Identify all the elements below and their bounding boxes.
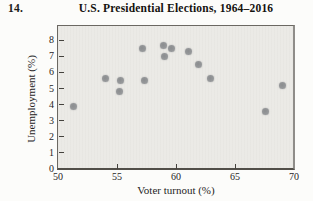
y-tick-mark bbox=[59, 120, 64, 121]
y-tick-label: 4 bbox=[36, 99, 54, 111]
y-tick-mark bbox=[59, 88, 64, 89]
data-point bbox=[195, 61, 202, 68]
data-point bbox=[141, 77, 148, 84]
plot-area bbox=[57, 25, 295, 170]
x-tick-label: 70 bbox=[284, 171, 304, 183]
data-point bbox=[102, 75, 109, 82]
y-tick-label: 5 bbox=[36, 83, 54, 95]
y-tick-label: 1 bbox=[36, 147, 54, 159]
y-tick-label: 2 bbox=[36, 131, 54, 143]
x-axis-label: Voter turnout (%) bbox=[57, 184, 295, 196]
y-tick-mark bbox=[59, 56, 64, 57]
data-point bbox=[168, 45, 175, 52]
data-point bbox=[70, 103, 77, 110]
x-tick-mark bbox=[235, 164, 236, 169]
data-point bbox=[262, 108, 269, 115]
y-tick-label: 6 bbox=[36, 66, 54, 78]
data-point bbox=[117, 77, 124, 84]
y-tick-label: 7 bbox=[36, 50, 54, 62]
y-tick-mark bbox=[59, 72, 64, 73]
data-point bbox=[160, 42, 167, 49]
data-point bbox=[279, 82, 286, 89]
y-axis-label: Unemployment (%) bbox=[25, 55, 37, 143]
chart-title: U.S. Presidential Elections, 1964–2016 bbox=[50, 2, 302, 14]
y-tick-mark bbox=[59, 40, 64, 41]
exercise-number: 14. bbox=[8, 2, 23, 14]
scatterplot-figure: 14. U.S. Presidential Elections, 1964–20… bbox=[0, 0, 313, 201]
y-tick-label: 8 bbox=[36, 34, 54, 46]
x-tick-label: 60 bbox=[166, 171, 186, 183]
x-tick-mark bbox=[117, 164, 118, 169]
x-tick-mark bbox=[176, 164, 177, 169]
y-tick-mark bbox=[59, 136, 64, 137]
x-tick-label: 55 bbox=[107, 171, 127, 183]
x-tick-label: 50 bbox=[48, 171, 68, 183]
x-tick-label: 65 bbox=[225, 171, 245, 183]
y-tick-label: 3 bbox=[36, 115, 54, 127]
y-tick-mark bbox=[59, 104, 64, 105]
y-tick-mark bbox=[59, 152, 64, 153]
data-point bbox=[161, 53, 168, 60]
